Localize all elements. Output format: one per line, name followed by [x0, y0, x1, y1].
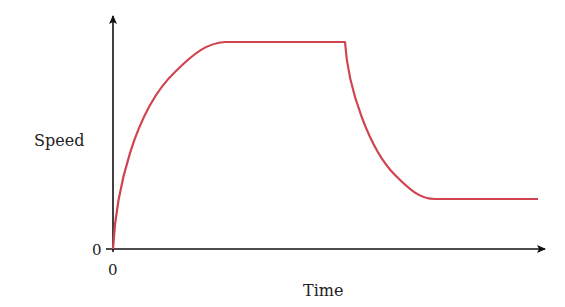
- speed-time-chart: Speed Time 0 0: [0, 0, 565, 307]
- x-axis-label: Time: [303, 281, 343, 300]
- y-axis-label: Speed: [34, 131, 84, 150]
- x-origin-tick-label: 0: [108, 261, 118, 279]
- speed-curve: [113, 42, 538, 249]
- y-origin-tick-label: 0: [92, 241, 102, 259]
